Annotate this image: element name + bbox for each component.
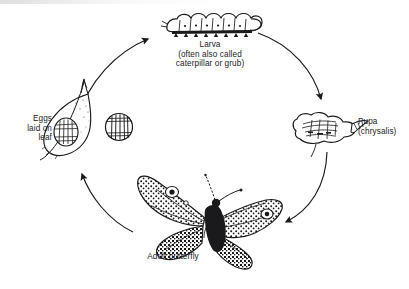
arrow-pupa-to-adult	[286, 152, 327, 222]
chrysalis-drawing	[293, 113, 368, 157]
caterpillar-drawing	[161, 14, 262, 38]
ribbed-egg-drawing	[106, 114, 133, 141]
butterfly-life-cycle-diagram: Larva (often also called caterpillar or …	[0, 0, 409, 289]
arrow-adult-to-eggs	[82, 174, 133, 232]
stage-label-adult-butterfly: Adult butterfly	[118, 252, 228, 262]
stage-label-pupa: Pupa (chrysalis)	[358, 117, 409, 136]
stage-label-eggs: Eggs laid on leaf	[4, 114, 52, 143]
egg-on-leaf	[54, 118, 78, 146]
stage-label-larva: Larva (often also called caterpillar or …	[150, 40, 270, 69]
